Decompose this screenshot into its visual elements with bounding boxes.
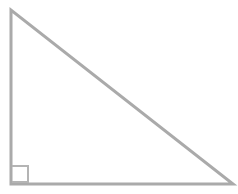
figure-canvas: [0, 0, 238, 194]
right-triangle-diagram: [0, 0, 238, 194]
